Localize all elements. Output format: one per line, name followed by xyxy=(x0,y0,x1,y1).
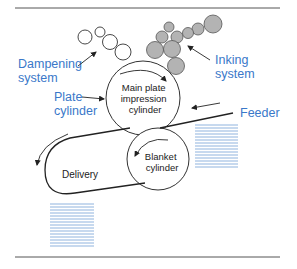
feeder-label: Feeder xyxy=(240,106,280,120)
inking-pointer xyxy=(188,46,210,60)
inking-system-label: Inking system xyxy=(215,53,255,81)
delivery-paper-stack xyxy=(50,204,94,246)
printing-press-diagram: Main plate impression cylinder Blanket c… xyxy=(0,0,297,269)
dampening-system-label: Dampening system xyxy=(18,57,85,85)
feeder-paper-stack xyxy=(195,125,238,167)
feeder-arrow xyxy=(192,103,220,108)
delivery-label: Delivery xyxy=(62,169,98,180)
plate-cylinder-label: Plate cylinder xyxy=(54,90,97,118)
delivery-arrow xyxy=(37,134,68,165)
blanket-cylinder-label: Blanket cylinder xyxy=(145,151,179,173)
dampening-rollers xyxy=(78,27,131,60)
